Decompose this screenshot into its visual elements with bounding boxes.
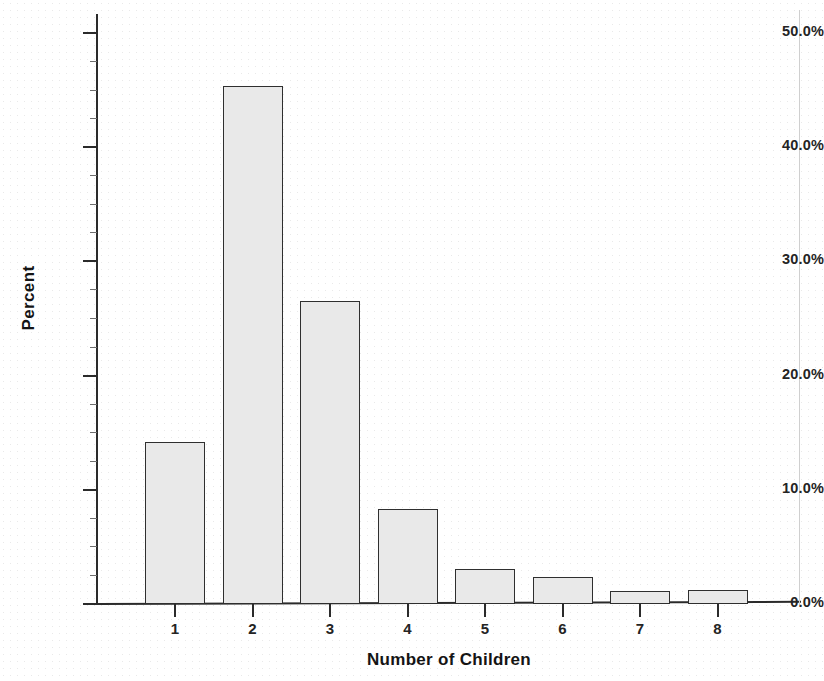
bar — [223, 86, 283, 604]
x-axis-tick — [174, 604, 176, 617]
y-axis-minor-tick — [90, 61, 97, 62]
x-axis-tick — [639, 604, 641, 617]
y-axis-tick — [83, 260, 97, 262]
x-axis-tick-label: 6 — [543, 620, 583, 637]
x-axis-tick — [484, 604, 486, 617]
y-axis-minor-tick — [90, 518, 97, 519]
bar — [533, 577, 593, 604]
y-axis-tick — [83, 146, 97, 148]
y-axis-tick-label: 20.0% — [748, 366, 824, 382]
y-axis-minor-tick — [90, 175, 97, 176]
bar — [610, 591, 670, 604]
x-axis-tick-label: 4 — [388, 620, 428, 637]
bar — [455, 569, 515, 604]
y-axis-minor-tick — [90, 575, 97, 576]
y-axis-minor-tick — [90, 232, 97, 233]
x-axis-tick — [407, 604, 409, 617]
x-axis-tick — [252, 604, 254, 617]
x-axis-tick — [717, 604, 719, 617]
bar — [688, 590, 748, 604]
x-axis-title: Number of Children — [97, 650, 801, 670]
y-axis-tick-label: 40.0% — [748, 137, 824, 153]
x-axis-tick-label: 8 — [698, 620, 738, 637]
y-axis-tick — [83, 375, 97, 377]
y-axis-tick-label: 10.0% — [748, 480, 824, 496]
x-axis-tick-label: 1 — [155, 620, 195, 637]
y-axis-minor-tick — [90, 404, 97, 405]
x-axis-tick — [562, 604, 564, 617]
y-axis-tick-label: 0.0% — [748, 594, 824, 610]
bar — [378, 509, 438, 604]
x-axis-tick-label: 5 — [465, 620, 505, 637]
y-axis-minor-tick — [90, 461, 97, 462]
y-axis-minor-tick — [90, 546, 97, 547]
y-axis-tick-label: 30.0% — [748, 251, 824, 267]
x-axis-tick-label: 3 — [310, 620, 350, 637]
y-axis-minor-tick — [90, 204, 97, 205]
y-axis-title: Percent — [19, 243, 39, 353]
y-axis-tick — [83, 32, 97, 34]
y-axis-minor-tick — [90, 118, 97, 119]
x-axis-tick-label: 2 — [233, 620, 273, 637]
bar-chart: Percent Number of Children 0.0%10.0%20.0… — [0, 0, 824, 681]
y-axis-tick — [83, 489, 97, 491]
y-axis-tick-label: 50.0% — [748, 23, 824, 39]
bar — [300, 301, 360, 604]
y-axis-minor-tick — [90, 318, 97, 319]
y-axis-minor-tick — [90, 90, 97, 91]
y-axis-minor-tick — [90, 347, 97, 348]
y-axis-minor-tick — [90, 432, 97, 433]
x-axis-tick — [329, 604, 331, 617]
x-axis-tick-label: 7 — [620, 620, 660, 637]
y-axis-tick-labels — [0, 0, 81, 681]
bar — [145, 442, 205, 604]
y-axis-minor-tick — [90, 289, 97, 290]
y-axis-tick — [83, 603, 97, 605]
